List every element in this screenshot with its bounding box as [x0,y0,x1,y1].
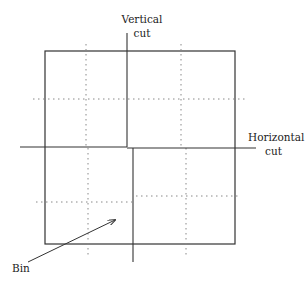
vertical-cut-label: Vertical [121,13,164,25]
bin-label: Bin [12,262,30,274]
horizontal-cut-line [20,147,256,148]
horizontal-cut-label-2: cut [265,145,283,157]
dotted-subdivision-lines [33,44,247,256]
horizontal-cut-label: Horizontal [248,131,305,143]
bin-arrow [28,220,115,262]
bin-cut-diagram: Vertical cut Horizontal cut Bin [0,0,308,283]
vertical-cut-label-2: cut [134,27,152,39]
